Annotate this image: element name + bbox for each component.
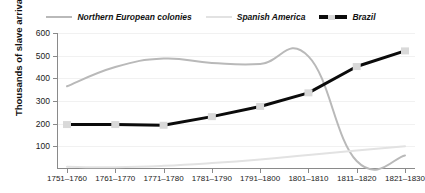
legend-label: Brazil xyxy=(352,12,375,22)
x-axis-label: 1791–1800 xyxy=(240,174,280,183)
x-axis-tick xyxy=(164,169,165,173)
chart-legend: Northern European colonies Spanish Ameri… xyxy=(0,8,422,26)
x-axis-tick xyxy=(67,169,68,173)
x-axis-label: 1781–1790 xyxy=(192,174,232,183)
y-axis-label: 400 xyxy=(36,73,50,83)
x-axis-label: 1821–1830 xyxy=(385,174,425,183)
legend-label: Spanish America xyxy=(237,12,306,22)
y-axis-label: 200 xyxy=(36,119,50,129)
data-point-marker[interactable] xyxy=(304,89,312,96)
x-axis-tick xyxy=(405,169,406,173)
data-point-marker[interactable] xyxy=(256,103,264,110)
y-axis-label: 600 xyxy=(36,28,50,38)
legend-swatch-line-icon xyxy=(206,16,232,18)
data-point-marker[interactable] xyxy=(208,113,216,120)
x-axis-tick xyxy=(260,169,261,173)
series-layer xyxy=(57,33,415,169)
series-line-brazil xyxy=(67,51,405,125)
data-point-marker[interactable] xyxy=(111,121,119,128)
x-axis-tick xyxy=(308,169,309,173)
x-axis-label: 1751–1760 xyxy=(47,174,87,183)
x-axis-tick xyxy=(212,169,213,173)
y-axis-label: 500 xyxy=(36,51,50,61)
legend-label: Northern European colonies xyxy=(77,12,191,22)
data-point-marker[interactable] xyxy=(160,122,168,129)
legend-item-northern-european-colonies[interactable]: Northern European colonies xyxy=(46,12,191,22)
y-axis-label: 300 xyxy=(36,96,50,106)
x-axis-tick xyxy=(357,169,358,173)
data-point-marker[interactable] xyxy=(401,47,409,54)
legend-swatch-line-icon xyxy=(46,16,72,18)
data-point-marker[interactable] xyxy=(63,121,71,128)
legend-item-brazil[interactable]: Brazil xyxy=(319,12,375,22)
y-axis-title: Thousands of slave arrivals xyxy=(13,0,24,124)
legend-swatch-marker-line-icon xyxy=(319,15,347,19)
data-point-marker[interactable] xyxy=(353,63,361,70)
legend-item-spanish-america[interactable]: Spanish America xyxy=(206,12,306,22)
y-axis-label: 100 xyxy=(36,141,50,151)
x-axis-label: 1761–1770 xyxy=(95,174,135,183)
x-axis-label: 1811–1820 xyxy=(337,174,376,183)
x-axis-tick xyxy=(115,169,116,173)
x-axis-label: 1801–1810 xyxy=(288,174,328,183)
plot-area: 600500400300200100 1751–17601761–1770177… xyxy=(57,33,415,169)
x-axis-label: 1771–1780 xyxy=(144,174,184,183)
